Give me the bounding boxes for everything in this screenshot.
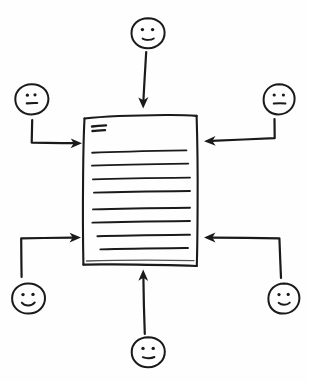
face-top-right-head	[264, 84, 295, 114]
arrow-top-right[interactable]	[204, 119, 275, 146]
sketch-canvas: Hand-drawn sketch: six people providing …	[0, 0, 309, 382]
face-top-center-eye-left	[141, 28, 144, 31]
face-bottom-right-mouth	[279, 303, 290, 305]
face-top-left-eye-left	[26, 94, 29, 97]
face-bottom-left[interactable]	[12, 283, 45, 313]
face-bottom-left-head	[12, 283, 45, 313]
arrow-bottom-right-shaft	[212, 238, 282, 278]
face-bottom-center-eye-right	[152, 347, 155, 350]
document-text-line-5	[93, 208, 190, 210]
document-outline-left	[83, 119, 85, 265]
face-bottom-left-eye-right	[31, 293, 34, 296]
document-text-line-1	[92, 150, 186, 152]
arrow-top-left-shaft	[32, 120, 75, 143]
document-text-line-2	[92, 164, 188, 166]
document-text-lines	[92, 150, 190, 249]
face-top-right-eye-right	[282, 93, 285, 96]
document-outline	[85, 115, 197, 119]
face-top-left[interactable]	[15, 84, 48, 114]
face-bottom-center-head	[132, 337, 165, 367]
face-top-left-head	[15, 84, 48, 114]
document-text-line-4	[94, 191, 190, 193]
arrow-top-center-shaft	[143, 52, 146, 102]
face-top-center-head	[131, 18, 164, 48]
face-bottom-right-head	[268, 283, 299, 313]
document-text-line-8	[100, 248, 188, 249]
face-top-right-eye-left	[273, 93, 276, 96]
face-bottom-right[interactable]	[268, 283, 299, 313]
face-bottom-right-eye-left	[277, 293, 280, 296]
face-bottom-center-eye-left	[141, 347, 144, 350]
face-top-center[interactable]	[131, 18, 164, 48]
face-top-right[interactable]	[264, 84, 295, 114]
document-text-line-7	[97, 235, 190, 237]
arrow-bottom-right[interactable]	[204, 233, 281, 278]
document-outline-bottom	[83, 264, 196, 266]
arrow-top-center[interactable]	[138, 52, 148, 109]
document-outline-bottom-inner	[87, 260, 195, 261]
face-top-left-eye-right	[33, 93, 36, 96]
document-outline-right	[197, 116, 198, 266]
arrow-bottom-left[interactable]	[21, 233, 81, 277]
document-text-line-3	[93, 178, 190, 180]
document-text-line-6	[92, 221, 190, 223]
document-node[interactable]	[83, 115, 198, 266]
face-bottom-center[interactable]	[132, 337, 165, 367]
face-bottom-center-mouth	[143, 357, 155, 358]
face-bottom-right-eye-right	[287, 293, 290, 296]
document-heading-mark	[92, 125, 106, 131]
face-bottom-left-eye-left	[21, 293, 24, 296]
face-top-center-eye-right	[151, 28, 154, 31]
face-bottom-left-mouth	[22, 302, 35, 305]
arrow-top-left[interactable]	[32, 120, 82, 148]
arrow-bottom-left-shaft	[21, 238, 73, 277]
arrow-top-right-shaft	[212, 119, 275, 141]
hand-drawn-diagram	[0, 0, 309, 382]
arrow-bottom-center[interactable]	[138, 270, 148, 335]
arrow-bottom-center-shaft	[143, 278, 144, 335]
face-top-center-mouth	[143, 38, 154, 40]
